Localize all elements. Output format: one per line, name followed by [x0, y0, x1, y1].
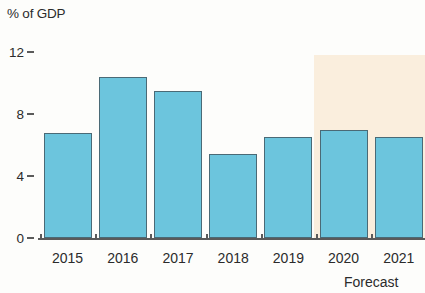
- bar-2017: [154, 91, 202, 238]
- y-axis-unit-title: % of GDP: [7, 6, 65, 21]
- x-tick-mark-2016: [95, 234, 97, 240]
- x-tick-label-2015: 2015: [52, 250, 83, 266]
- y-tick-mark-0: [27, 237, 34, 239]
- bar-2019: [264, 137, 312, 238]
- plot-area: [38, 45, 425, 239]
- y-tick-label-4: 4: [16, 169, 24, 184]
- bar-2021: [375, 137, 423, 238]
- bar-2016: [99, 77, 147, 238]
- y-tick-mark-4: [27, 175, 34, 177]
- bar-2015: [44, 133, 92, 238]
- x-tick-label-2017: 2017: [162, 250, 193, 266]
- x-tick-label-2021: 2021: [383, 250, 414, 266]
- x-tick-label-2018: 2018: [218, 250, 249, 266]
- y-tick-label-8: 8: [16, 107, 24, 122]
- bar-2020: [320, 130, 368, 239]
- y-tick-mark-8: [27, 113, 34, 115]
- x-tick-mark-2019: [261, 234, 263, 240]
- y-tick-mark-12: [27, 51, 34, 53]
- x-tick-mark-2017: [150, 234, 152, 240]
- y-tick-label-12: 12: [9, 45, 24, 60]
- forecast-annotation-label: Forecast: [344, 274, 398, 290]
- x-tick-mark-2015: [40, 234, 42, 240]
- bar-chart: % of GDP 04812 2015201620172018201920202…: [0, 0, 425, 293]
- bar-2018: [209, 154, 257, 238]
- y-tick-label-0: 0: [16, 231, 24, 246]
- x-tick-label-2019: 2019: [273, 250, 304, 266]
- x-tick-mark-2020: [316, 234, 318, 240]
- x-tick-mark-2021: [371, 234, 373, 240]
- x-tick-mark-2018: [206, 234, 208, 240]
- x-tick-label-2016: 2016: [107, 250, 138, 266]
- x-tick-label-2020: 2020: [328, 250, 359, 266]
